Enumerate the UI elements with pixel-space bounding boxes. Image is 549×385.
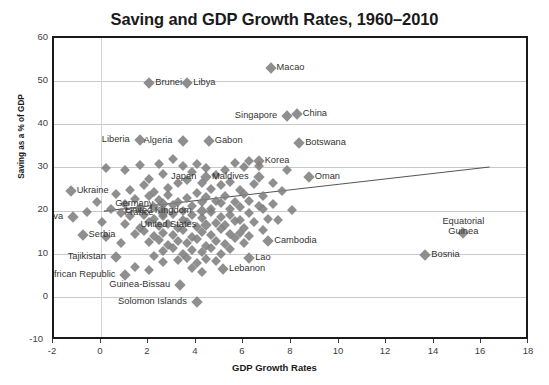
x-tickmark	[147, 339, 148, 343]
point-label-solomon-islands: Solomon Islands	[118, 296, 187, 307]
y-tick-60: 60	[18, 31, 48, 42]
x-tick-0: 0	[80, 345, 120, 356]
x-tickmark	[527, 339, 528, 343]
y-tick-20: 20	[18, 203, 48, 214]
point-label-china: China	[303, 108, 327, 119]
x-tickmark	[480, 339, 481, 343]
point-label-macao: Macao	[277, 62, 305, 73]
x-tick-neg2: -2	[32, 345, 72, 356]
point-label-guinea-bissau: Guinea-Bissau	[109, 279, 170, 290]
point-label-serbia: Serbia	[89, 229, 116, 240]
point-label-ukraine: Ukraine	[77, 185, 109, 196]
point-label-tajikistan: Tajikistan	[68, 251, 106, 262]
point-label-france: France	[125, 207, 154, 218]
point-label-korea: Korea	[265, 155, 290, 166]
point-label-united-states: United States	[141, 219, 197, 230]
y-axis-label: Saving as a % of GDP	[17, 72, 26, 202]
plot-area: MacaoBruneiLibyaSingaporeChinaLiberiaAlg…	[52, 36, 528, 339]
y-tick-50: 50	[18, 74, 48, 85]
x-tick-4: 4	[175, 345, 215, 356]
point-label-brunei: Brunei	[155, 77, 182, 88]
point-label-botswana: Botswana	[305, 137, 346, 148]
x-tick-2: 2	[127, 345, 167, 356]
x-tickmark	[290, 339, 291, 343]
x-tick-6: 6	[222, 345, 262, 356]
point-label-lao: Lao	[255, 252, 271, 263]
point-label-singapore: Singapore	[235, 110, 277, 121]
x-tickmark	[52, 339, 53, 343]
point-label-equatorial-guinea: Equatorial Guinea	[435, 216, 491, 237]
point-label-lebanon: Lebanon	[229, 263, 265, 274]
x-tickmark	[338, 339, 339, 343]
chart-root: Saving and GDP Growth Rates, 1960–2010 S…	[0, 0, 549, 385]
point-label-bosnia: Bosnia	[431, 249, 459, 260]
x-tick-8: 8	[270, 345, 310, 356]
x-tick-16: 16	[460, 345, 500, 356]
chart-title: Saving and GDP Growth Rates, 1960–2010	[0, 10, 549, 29]
point-label-oman: Oman	[315, 171, 340, 182]
y-tick-0: 0	[18, 290, 48, 301]
point-label-cambodia: Cambodia	[274, 235, 316, 246]
x-tickmark	[242, 339, 243, 343]
point-label-algeria: Algeria	[144, 135, 173, 146]
x-tickmark	[195, 339, 196, 343]
x-tickmark	[100, 339, 101, 343]
y-tick-10: 10	[18, 247, 48, 258]
x-tick-14: 14	[413, 345, 453, 356]
y-tick-40: 40	[18, 117, 48, 128]
y-tick-30: 30	[18, 160, 48, 171]
x-tick-12: 12	[365, 345, 405, 356]
x-axis-label: GDP Growth Rates	[0, 362, 549, 373]
y-tick-neg10: -10	[13, 333, 43, 344]
x-tickmark	[385, 339, 386, 343]
point-label-central-african-republic: Central African Republic	[52, 269, 115, 280]
x-tick-18: 18	[508, 345, 548, 356]
point-label-moldova: Moldova	[52, 211, 63, 222]
x-tick-10: 10	[318, 345, 358, 356]
point-label-gabon: Gabon	[215, 135, 243, 146]
point-label-liberia: Liberia	[102, 134, 130, 145]
point-label-japan: Japan	[171, 171, 196, 182]
x-tickmark	[433, 339, 434, 343]
point-label-maldives: Maldives	[212, 171, 249, 182]
point-label-libya: Libya	[193, 77, 215, 88]
